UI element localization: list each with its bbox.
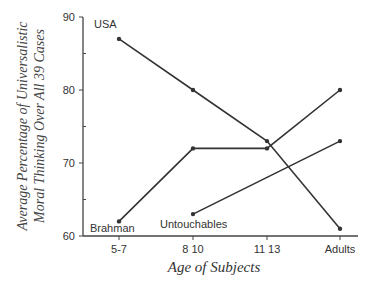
series-labels: USABrahmanUntouchables: [90, 18, 228, 234]
y-tick-label: 70: [63, 157, 75, 169]
x-axis-title: Age of Subjects: [167, 259, 261, 275]
y-tick-label: 60: [63, 230, 75, 242]
x-tick-label: 8 10: [182, 243, 203, 255]
x-tick-label: Adults: [325, 243, 356, 255]
y-tick-label: 90: [63, 11, 75, 23]
series-label-brahman: Brahman: [90, 222, 135, 234]
series-line-usa: [119, 39, 340, 229]
y-tick-label: 80: [63, 84, 75, 96]
x-tick-label: 5-7: [111, 243, 127, 255]
data-point: [265, 139, 269, 143]
series-label-usa: USA: [94, 18, 117, 30]
data-point: [338, 139, 342, 143]
data-point: [338, 88, 342, 92]
y-axis-title-line: Average Percentage of Universalistic: [15, 21, 30, 232]
line-chart: Average Percentage of UniversalisticMora…: [0, 0, 388, 291]
data-point: [191, 146, 195, 150]
data-point: [191, 88, 195, 92]
data-point: [265, 146, 269, 150]
y-axis-title-line: Moral Thinking Over All 39 Cases: [32, 29, 47, 224]
series-line-brahman: [119, 90, 340, 221]
data-point: [338, 227, 342, 231]
series-lines: [117, 37, 342, 231]
data-point: [117, 37, 121, 41]
y-axis-title: Average Percentage of UniversalisticMora…: [15, 21, 47, 232]
series-label-untouchables: Untouchables: [160, 218, 228, 230]
data-point: [191, 212, 195, 216]
x-tick-label: 11 13: [254, 243, 281, 255]
